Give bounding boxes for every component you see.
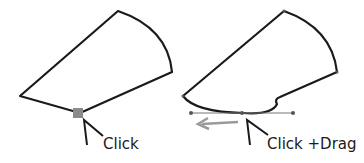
left-shape — [20, 11, 172, 145]
cursor-pointer-icon — [247, 120, 268, 145]
click-caption: Click — [103, 135, 139, 153]
drag-arrow-icon — [198, 118, 238, 129]
anchor-point-marker — [73, 108, 83, 118]
right-shape — [182, 10, 339, 146]
click-drag-caption: Click +Drag — [267, 135, 357, 153]
diagram: Click Click +Drag — [0, 0, 364, 163]
cursor-pointer-icon — [84, 120, 103, 145]
